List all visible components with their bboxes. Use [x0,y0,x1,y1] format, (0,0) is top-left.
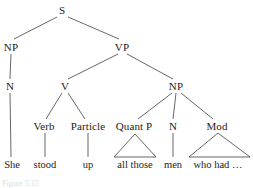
node-s: S [59,4,65,16]
quantp-triangle [114,134,156,157]
terminal-all-those: all those [117,159,152,170]
v-to-particle [68,93,85,119]
node-mod: Mod [206,120,227,132]
terminal-up: up [83,159,94,170]
node-particle: Particle [71,120,105,132]
s-to-np-subj [14,17,57,39]
node-n-object: N [169,120,177,132]
np-obj-to-n-obj [173,93,176,119]
np-obj-to-quantp [138,93,172,119]
node-np-subject: NP [4,41,18,53]
terminal-men: men [164,159,182,170]
np-subj-to-n [10,54,11,79]
node-verb: Verb [33,120,54,132]
terminal-who-had: who had … [194,159,243,170]
terminal-stood: stood [34,159,57,170]
node-quant-p: Quant P [116,120,152,132]
np-obj-to-mod [181,93,213,119]
vp-to-np-obj [127,54,173,79]
vp-to-v [68,54,118,79]
mod-triangle [189,133,250,157]
node-n-subject: N [6,80,14,92]
s-to-vp [68,17,119,39]
n-subj-to-she [10,93,11,157]
v-to-verb [46,93,62,119]
tree-triangles [114,133,250,157]
node-np-object: NP [169,80,183,92]
syntax-tree-figure: S NP VP N V NP Verb Particle Quant P N M… [0,0,253,188]
caption-fragment: Figure 5.15 [2,179,39,188]
node-vp: VP [115,41,129,53]
terminal-she: She [4,159,20,170]
node-v: V [61,80,69,92]
